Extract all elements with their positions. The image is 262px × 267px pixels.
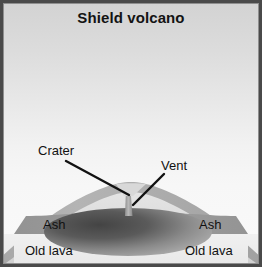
crater-leader-line <box>66 161 129 195</box>
label-ash-right: Ash <box>199 217 221 232</box>
label-vent: Vent <box>161 158 187 173</box>
label-old-lava-left: Old lava <box>25 243 73 258</box>
figure-title: Shield volcano <box>0 9 262 26</box>
label-old-lava-right: Old lava <box>185 243 233 258</box>
label-crater: Crater <box>38 143 74 158</box>
label-ash-left: Ash <box>43 217 65 232</box>
volcano-cross-section-graphic <box>0 0 262 267</box>
shield-volcano-figure: Shield volcano <box>0 0 262 267</box>
